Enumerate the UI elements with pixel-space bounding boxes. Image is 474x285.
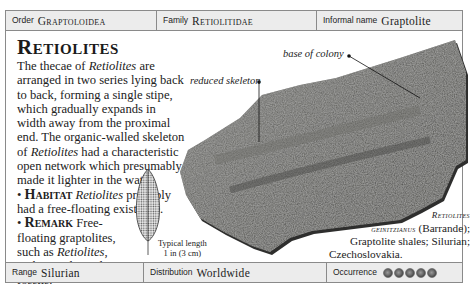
distribution-value: Worldwide [197, 267, 251, 279]
callout-reduced-skeleton: reduced skeleton [190, 75, 260, 86]
range-cell: Range Silurian [6, 263, 144, 282]
distribution-cell: Distribution Worldwide [144, 263, 327, 282]
caption-species: geinitzianus [371, 224, 415, 234]
range-value: Silurian [41, 267, 80, 279]
typical-length-note: Typical length 1 in (3 cm) [158, 238, 207, 258]
specimen-caption: Retiolites geinitzianus (Barrande); Grap… [320, 209, 470, 260]
occurrence-cell: Occurrence [327, 263, 462, 282]
habitat-genus: Retiolites [75, 188, 123, 202]
callout-base-of-colony: base of colony [283, 48, 344, 59]
bullet-icon: • [17, 188, 21, 202]
occurrence-dot-icon [405, 268, 415, 278]
intro-genus-1: Retiolites [89, 59, 137, 73]
occurrence-dot-icon [427, 268, 437, 278]
typical-length-value: 1 in (3 cm) [158, 248, 207, 258]
range-bar: Range Silurian Distribution Worldwide Oc… [5, 262, 463, 283]
intro-genus-2: Retiolites [31, 145, 79, 159]
occurrence-dot-icon [383, 268, 393, 278]
caption-author: (Barrande); [416, 222, 470, 234]
remark-heading: Remark [25, 215, 73, 230]
caption-genus: Retiolites [320, 209, 470, 222]
habitat-heading: Habitat [25, 187, 73, 202]
bullet-icon: • [17, 216, 21, 230]
fossil-entry-page: Order Graptoloidea Family Retiolitidae I… [0, 0, 474, 285]
occurrence-label: Occurrence [333, 267, 377, 277]
caption-locality: Graptolite shales; Silurian; [320, 235, 470, 248]
range-label: Range [12, 267, 37, 277]
occurrence-dot-icon [416, 268, 426, 278]
intro-text-1: The thecae of [17, 59, 89, 73]
occurrence-rating [383, 268, 437, 278]
caption-country: Czechoslovakia. [320, 248, 470, 261]
typical-length-label: Typical length [158, 238, 207, 248]
distribution-label: Distribution [150, 267, 193, 277]
remark-genus: Retiolites [57, 245, 105, 259]
page-title: Retiolites [17, 35, 119, 60]
occurrence-dot-icon [394, 268, 404, 278]
